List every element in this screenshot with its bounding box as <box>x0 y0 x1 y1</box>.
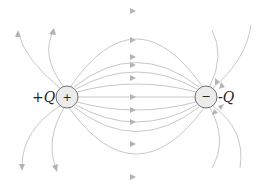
negative-charge-label: -Q <box>218 89 235 105</box>
negative-charge: − -Q <box>195 86 235 108</box>
positive-charge-label: +Q <box>32 89 56 105</box>
dipole-field-diagram: + +Q − -Q <box>0 0 262 190</box>
plus-sign: + <box>62 91 71 104</box>
positive-charge: + +Q <box>32 86 78 108</box>
minus-sign: − <box>201 90 210 103</box>
